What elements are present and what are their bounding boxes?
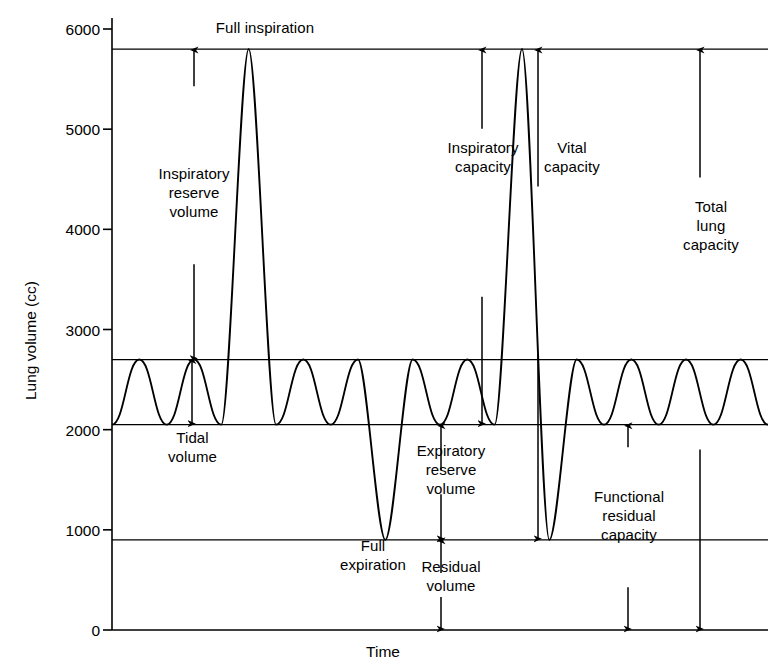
y-tick-2000: 2000 — [40, 422, 100, 440]
y-tick-5000: 5000 — [40, 121, 100, 139]
label-full-expiration: Full expiration — [318, 536, 428, 574]
label-total-lung-capacity: Total lung capacity — [666, 197, 756, 254]
y-tick-0: 0 — [40, 622, 100, 640]
x-axis-title: Time — [343, 643, 423, 661]
spirogram-figure: Lung volume (cc) Time 6000 5000 4000 300… — [0, 0, 771, 672]
y-axis-title: Lung volume (cc) — [22, 281, 40, 400]
label-functional-residual-capacity: Functional residual capacity — [569, 487, 689, 544]
label-inspiratory-reserve-volume: Inspiratory reserve volume — [134, 164, 254, 221]
y-tick-4000: 4000 — [40, 221, 100, 239]
label-full-inspiration: Full inspiration — [185, 18, 345, 37]
label-vital-capacity: Vital capacity — [528, 138, 616, 176]
y-tick-3000: 3000 — [40, 322, 100, 340]
y-tick-1000: 1000 — [40, 522, 100, 540]
label-expiratory-reserve-volume: Expiratory reserve volume — [391, 441, 511, 498]
label-inspiratory-capacity: Inspiratory capacity — [424, 138, 542, 176]
label-tidal-volume: Tidal volume — [140, 428, 245, 466]
y-tick-6000: 6000 — [40, 21, 100, 39]
